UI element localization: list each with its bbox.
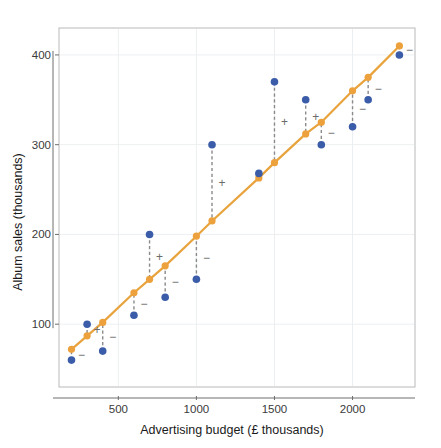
residual-sign-7: + [219,176,226,190]
observed-point-9[interactable] [271,78,279,86]
observed-point-2[interactable] [99,347,107,355]
observed-point-6[interactable] [193,276,201,284]
observed-point-5[interactable] [161,293,169,301]
y-tick-label-1: 200 [32,228,51,240]
predicted-point-0[interactable] [68,346,75,353]
plot-area: 100200300400500100015002000−+−−+−−+++−−−… [32,28,415,415]
residual-sign-6: − [203,251,210,265]
predicted-point-12[interactable] [349,87,356,94]
predicted-point-4[interactable] [146,276,153,283]
predicted-point-13[interactable] [365,74,372,81]
observed-point-8[interactable] [255,170,263,178]
observed-point-1[interactable] [83,320,91,328]
residual-sign-5: − [172,275,179,289]
predicted-point-3[interactable] [130,289,137,296]
residual-sign-3: − [140,297,147,311]
residual-sign-11: − [328,126,335,140]
observed-point-14[interactable] [396,51,404,59]
x-tick-label-3: 2000 [340,403,366,415]
y-tick-label-3: 400 [32,49,51,61]
predicted-point-1[interactable] [84,332,91,339]
residual-sign-14: − [406,43,413,57]
residual-sign-1: + [94,323,101,337]
x-axis-title: Advertising budget (£ thousands) [140,423,323,437]
y-tick-label-0: 100 [32,318,51,330]
predicted-point-10[interactable] [302,130,309,137]
observed-point-10[interactable] [302,96,310,104]
x-tick-label-2: 1500 [262,403,288,415]
observed-point-3[interactable] [130,311,138,319]
residual-sign-0: − [78,348,85,362]
residual-sign-9: + [281,115,288,129]
y-tick-label-2: 300 [32,139,51,151]
x-tick-label-1: 1000 [184,403,210,415]
predicted-point-6[interactable] [193,233,200,240]
predicted-point-14[interactable] [396,42,403,49]
observed-point-4[interactable] [146,231,154,239]
observed-point-0[interactable] [68,356,76,364]
residual-sign-4: + [156,250,163,264]
residual-sign-13: − [375,82,382,96]
observed-point-7[interactable] [208,141,216,149]
observed-point-12[interactable] [349,123,357,131]
residual-sign-10: + [312,110,319,124]
y-axis-title: Album sales (thousands) [11,153,25,291]
residual-sign-12: − [359,102,366,116]
x-tick-label-0: 500 [109,403,128,415]
observed-point-11[interactable] [318,141,326,149]
residual-sign-2: − [109,330,116,344]
predicted-point-7[interactable] [208,217,215,224]
predicted-point-9[interactable] [271,159,278,166]
scatter-plot-figure: 100200300400500100015002000−+−−+−−+++−−−… [0,0,441,448]
